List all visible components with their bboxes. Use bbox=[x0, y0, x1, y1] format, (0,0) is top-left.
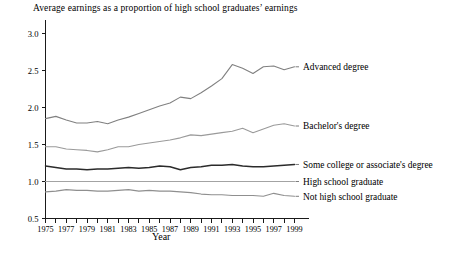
chart-title: Average earnings as a proportion of high… bbox=[33, 2, 298, 14]
series-line bbox=[46, 190, 295, 197]
line-chart-plot: 0.51.01.52.02.53.0 197519771979198119831… bbox=[0, 0, 460, 256]
series-lines bbox=[46, 65, 295, 197]
series-label-text: Not high school graduate bbox=[303, 192, 398, 202]
x-tick-label: 1997 bbox=[266, 225, 282, 234]
series-labels: Advanced degreeBachelor's degreeSome col… bbox=[296, 62, 433, 202]
x-tick-label: 1983 bbox=[120, 225, 136, 234]
series-label-text: Advanced degree bbox=[303, 62, 368, 72]
x-tick-label: 1993 bbox=[224, 225, 240, 234]
series-label-text: Bachelor's degree bbox=[303, 121, 370, 131]
y-tick-label: 3.0 bbox=[28, 29, 39, 39]
series-line bbox=[46, 164, 295, 169]
x-tick-label: 1989 bbox=[183, 225, 199, 234]
x-axis: 1975197719791981198319851987198919911993… bbox=[37, 219, 308, 235]
x-tick-label: 1991 bbox=[203, 225, 219, 234]
x-tick-label: 1979 bbox=[79, 225, 95, 234]
y-tick-label: 2.0 bbox=[28, 103, 39, 113]
series-line bbox=[46, 65, 295, 124]
x-tick-label: 1995 bbox=[245, 225, 261, 234]
y-tick-label: 0.5 bbox=[28, 214, 39, 224]
series-line bbox=[46, 124, 295, 152]
x-tick-label: 1977 bbox=[58, 225, 74, 234]
series-label-text: Some college or associate's degree bbox=[303, 160, 433, 170]
y-tick-label: 1.0 bbox=[28, 177, 39, 187]
series-label-text: High school graduate bbox=[303, 177, 383, 187]
x-tick-label: 1975 bbox=[37, 225, 53, 234]
y-tick-label: 1.5 bbox=[28, 140, 39, 150]
y-tick-label: 2.5 bbox=[28, 66, 39, 76]
x-axis-label: Year bbox=[152, 231, 170, 242]
x-tick-label: 1999 bbox=[286, 225, 302, 234]
x-tick-label: 1981 bbox=[100, 225, 116, 234]
chart-figure: Average earnings as a proportion of high… bbox=[0, 0, 460, 256]
y-axis: 0.51.01.52.02.53.0 bbox=[28, 20, 46, 224]
